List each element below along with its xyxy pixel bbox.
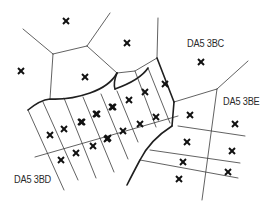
cross-icon — [126, 97, 132, 103]
cross-icon — [124, 40, 130, 46]
cross-icon — [137, 121, 143, 127]
cross-icon — [58, 157, 64, 163]
cross-icon — [153, 114, 159, 120]
cross-icon — [47, 132, 53, 138]
cross-icon — [180, 159, 186, 165]
label-da5-3bd: DA5 3BD — [14, 174, 51, 185]
cross-icon — [18, 68, 24, 74]
label-da5-3be: DA5 3BE — [223, 96, 260, 107]
cross-icon — [198, 59, 204, 65]
cross-icon — [73, 150, 79, 156]
cross-icon — [225, 169, 231, 175]
cross-icon — [176, 176, 182, 182]
cross-icon — [90, 143, 96, 149]
cross-icon — [184, 139, 190, 145]
cross-icon — [232, 121, 238, 127]
cross-icon — [63, 18, 69, 24]
cross-icon — [61, 126, 67, 132]
cross-icon — [229, 148, 235, 154]
cross-icon — [82, 74, 88, 80]
bold-boundaries — [28, 58, 174, 185]
label-da5-3bc: DA5 3BC — [187, 38, 224, 49]
cross-icon — [187, 112, 193, 118]
